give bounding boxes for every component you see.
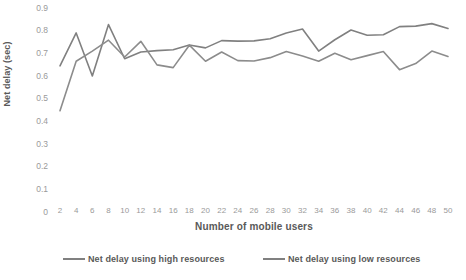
y-axis-tick-label: 0.1 bbox=[20, 185, 48, 194]
legend-label: Net delay using low resources bbox=[288, 254, 420, 264]
y-axis-tick-label: 0 bbox=[20, 208, 48, 217]
legend-item-high-resources: Net delay using high resources bbox=[63, 252, 225, 266]
y-axis-tick-label: 0.8 bbox=[20, 26, 48, 35]
chart-legend: Net delay using high resources Net delay… bbox=[0, 252, 466, 272]
line-chart: Net delay (sec) 0.90.80.70.60.50.40.30.2… bbox=[0, 0, 466, 280]
x-axis-tick-labels: 2468101214161820222426283032343638404244… bbox=[52, 205, 456, 219]
y-axis-tick-label: 0.6 bbox=[20, 72, 48, 81]
legend-swatch-icon bbox=[63, 258, 85, 260]
legend-label: Net delay using high resources bbox=[88, 254, 225, 264]
y-axis-tick-label: 0.5 bbox=[20, 94, 48, 103]
y-axis-tick-label: 0.2 bbox=[20, 162, 48, 171]
y-axis-tick-label: 0.3 bbox=[20, 140, 48, 149]
y-axis-tick-labels: 0.90.80.70.60.50.40.30.20.10 bbox=[20, 0, 48, 220]
y-axis-tick-label: 0.9 bbox=[20, 4, 48, 13]
x-axis-tick-label: 50 bbox=[439, 205, 457, 216]
y-axis-tick-label: 0.7 bbox=[20, 49, 48, 58]
series-line-1 bbox=[60, 40, 448, 110]
y-axis-title-text: Net delay (sec) bbox=[2, 14, 12, 134]
plot-area bbox=[52, 8, 456, 212]
plot-lines bbox=[52, 8, 456, 212]
y-axis-tick-label: 0.4 bbox=[20, 117, 48, 126]
legend-swatch-icon bbox=[263, 258, 285, 260]
legend-item-low-resources: Net delay using low resources bbox=[263, 252, 420, 266]
x-axis-title: Number of mobile users bbox=[52, 221, 456, 232]
y-axis-title: Net delay (sec) bbox=[2, 0, 16, 14]
